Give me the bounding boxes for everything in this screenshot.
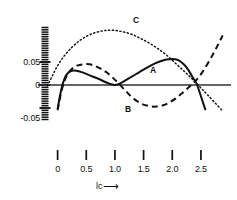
curve-label-a: A <box>150 65 156 75</box>
x-tick-label: 2.0 <box>166 164 178 174</box>
y-tick-label-zero: 0 <box>6 80 40 90</box>
data-curves <box>47 30 222 110</box>
y-tick-label-lower: -0.05 <box>2 113 40 123</box>
curve-label-b: B <box>125 104 131 114</box>
x-tick-label: 1.5 <box>138 164 150 174</box>
x-axis-arrow-icon: ⟶ <box>103 180 119 192</box>
x-tick-label: 1.0 <box>109 164 121 174</box>
x-axis-tick-marks <box>58 150 201 160</box>
x-tick-label: 0.5 <box>80 164 92 174</box>
y-axis-tick-marks <box>40 28 51 120</box>
y-tick-label-upper: 0.05 <box>6 57 40 67</box>
x-axis-caption: lc⟶ <box>96 181 119 191</box>
chart-figure: 0.05 0 -0.05 00.51.01.52.02.5 A B C lc⟶ <box>0 0 237 200</box>
curve-label-c: C <box>133 15 139 25</box>
x-tick-label: 0 <box>55 164 60 174</box>
x-tick-label: 2.5 <box>195 164 207 174</box>
